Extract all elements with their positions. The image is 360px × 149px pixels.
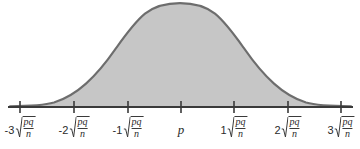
radicand-denominator: n	[131, 128, 141, 140]
radical-sign-icon	[282, 116, 289, 138]
axis-label-neg-2: -2 pq n	[59, 114, 90, 140]
axis-label-pos-1: 1 pq n	[220, 114, 247, 140]
axis-label-pos-3: 3 pq n	[327, 114, 354, 140]
radicand-numerator: pq	[290, 116, 300, 127]
sqrt-icon: pq n	[123, 116, 143, 138]
axis-label-neg-2-coefficient: -2	[59, 125, 69, 136]
radicand-numerator: pq	[343, 116, 353, 127]
radical-sign-icon	[123, 116, 130, 138]
radical-sign-icon	[228, 116, 235, 138]
sqrt-icon: pq n	[335, 116, 355, 138]
radical-sign-icon	[15, 116, 22, 138]
axis-label-pos-3-coefficient: 3	[327, 125, 333, 136]
radicand-denominator: n	[290, 128, 300, 140]
radicand-numerator: pq	[77, 116, 87, 127]
radicand-denominator: n	[236, 128, 246, 140]
radicand: pq n	[342, 116, 355, 138]
sqrt-icon: pq n	[15, 116, 35, 138]
sqrt-icon: pq n	[282, 116, 302, 138]
radicand-numerator: pq	[236, 116, 246, 127]
axis-label-neg-1: -1 pq n	[113, 114, 144, 140]
axis-label-center: p	[178, 114, 185, 140]
radicand: pq n	[130, 116, 143, 138]
axis-label-neg-3-coefficient: -3	[5, 125, 15, 136]
sqrt-icon: pq n	[228, 116, 248, 138]
radicand: pq n	[289, 116, 302, 138]
center-label-p: p	[178, 123, 185, 136]
normal-distribution-figure: -3 pq n -2 pq n -1	[0, 0, 360, 149]
radicand: pq n	[22, 116, 35, 138]
radicand: pq n	[76, 116, 89, 138]
radicand-denominator: n	[343, 128, 353, 140]
axis-label-pos-2-coefficient: 2	[274, 125, 280, 136]
sqrt-icon: pq n	[69, 116, 89, 138]
radical-sign-icon	[335, 116, 342, 138]
radicand-numerator: pq	[23, 116, 33, 127]
radicand: pq n	[235, 116, 248, 138]
radicand-denominator: n	[23, 128, 33, 140]
radicand-denominator: n	[77, 128, 87, 140]
axis-label-pos-1-coefficient: 1	[220, 125, 226, 136]
axis-label-neg-1-coefficient: -1	[113, 125, 123, 136]
radicand-numerator: pq	[131, 116, 141, 127]
axis-label-pos-2: 2 pq n	[274, 114, 301, 140]
axis-label-neg-3: -3 pq n	[5, 114, 36, 140]
bell-curve-area	[8, 4, 353, 108]
radical-sign-icon	[69, 116, 76, 138]
